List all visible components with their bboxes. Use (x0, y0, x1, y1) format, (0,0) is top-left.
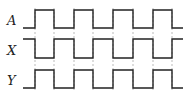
timing-waveforms (0, 0, 188, 102)
waveform-x (23, 39, 183, 58)
waveform-a (23, 10, 183, 28)
waveform-y (23, 70, 183, 88)
